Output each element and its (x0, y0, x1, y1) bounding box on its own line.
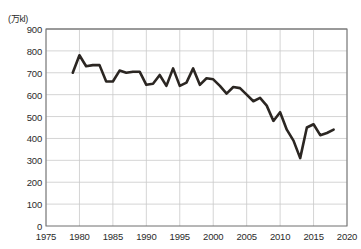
x-axis-tick-1975: 1975 (36, 231, 56, 242)
x-axis-tick-2015: 2015 (303, 231, 323, 242)
x-axis-tick-2000: 2000 (203, 231, 223, 242)
x-axis-tick-1985: 1985 (103, 231, 123, 242)
x-axis-tick-1990: 1990 (136, 231, 156, 242)
x-axis-tick-2005: 2005 (236, 231, 256, 242)
x-axis-tick-1980: 1980 (69, 231, 89, 242)
grid-lines (46, 29, 347, 226)
x-axis-tick-1995: 1995 (170, 231, 190, 242)
chart-container: (万kl) 9008007006005004003002001000 19751… (0, 0, 361, 249)
plot-area (0, 0, 361, 249)
plot-border (46, 29, 347, 226)
x-axis-tick-2010: 2010 (270, 231, 290, 242)
data-line-consumption (73, 55, 334, 158)
x-axis-tick-2020: 2020 (337, 231, 357, 242)
